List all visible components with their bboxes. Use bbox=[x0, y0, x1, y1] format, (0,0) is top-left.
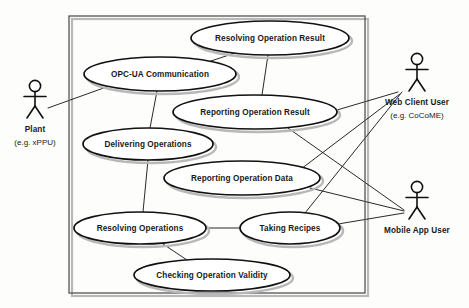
actor-label-mobile-app-user: Mobile App User bbox=[384, 226, 450, 235]
actor-head-plant bbox=[29, 80, 40, 91]
association-resolving-operation-result-to-reporting-operation-result bbox=[262, 55, 268, 95]
actor-leg-right-plant bbox=[35, 106, 43, 118]
actor-leg-left-web-client-user bbox=[409, 79, 417, 91]
use-case-diagram-canvas: Resolving Operation ResultOPC-UA Communi… bbox=[0, 0, 469, 308]
actor-leg-right-web-client-user bbox=[417, 79, 425, 91]
actor-leg-left-mobile-app-user bbox=[409, 207, 417, 219]
use-case-ellipse-taking-recipes[interactable] bbox=[240, 212, 340, 244]
actor-sublabel-plant: (e.g. xPPU) bbox=[14, 138, 55, 147]
use-case-ellipses-group bbox=[74, 21, 352, 294]
actor-web-client-user[interactable] bbox=[406, 53, 428, 91]
association-delivering-operations-to-resolving-operations bbox=[143, 160, 148, 212]
actor-label-web-client-user: Web Client User bbox=[385, 98, 449, 107]
actor-leg-left-plant bbox=[27, 106, 35, 118]
use-case-ellipse-reporting-operation-data[interactable] bbox=[164, 161, 320, 195]
diagram-vector-layer bbox=[0, 0, 469, 308]
use-case-ellipse-checking-operation-validity[interactable] bbox=[134, 259, 290, 291]
actor-label-plant: Plant bbox=[25, 125, 46, 134]
use-case-ellipse-resolving-operation-result[interactable] bbox=[191, 21, 349, 55]
association-opc-ua-communication-to-delivering-operations bbox=[150, 91, 157, 128]
use-case-ellipse-resolving-operations[interactable] bbox=[74, 212, 206, 244]
use-case-ellipse-reporting-operation-result[interactable] bbox=[173, 95, 337, 129]
use-case-ellipse-opc-ua-communication[interactable] bbox=[84, 57, 236, 91]
actor-mobile-app-user[interactable] bbox=[406, 181, 428, 219]
actor-leg-right-mobile-app-user bbox=[417, 207, 425, 219]
association-mobile-app-user-to-taking-recipes bbox=[338, 213, 404, 224]
actor-sublabel-web-client-user: (e.g. CoCoME) bbox=[390, 111, 443, 120]
actor-plant[interactable] bbox=[24, 80, 46, 118]
use-case-ellipse-delivering-operations[interactable] bbox=[83, 128, 213, 160]
actor-head-mobile-app-user bbox=[411, 181, 422, 192]
actor-head-web-client-user bbox=[411, 53, 422, 64]
